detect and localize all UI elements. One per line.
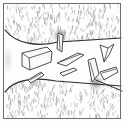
figure-svg: [0, 0, 124, 122]
illustration-canvas: Line-art sketch of a layered rock fabric: [0, 0, 124, 122]
grain-sliver-upper-center: [57, 33, 63, 52]
